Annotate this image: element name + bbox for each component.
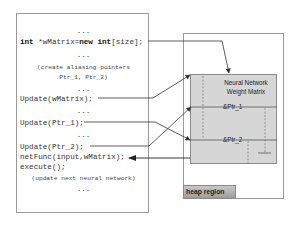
matrix-title-line2: Weight Matrix [215, 88, 277, 97]
code-comment: (update next neural network) [17, 174, 150, 183]
code-ellipsis: ... [17, 107, 150, 116]
code-line-allocation: int *wMatrix=new int[size]; [20, 38, 143, 47]
code-ellipsis: ... [17, 27, 150, 36]
ptr2-label: &Ptr_2 [223, 136, 242, 143]
code-line-netfunc: netFunc(input,wMatrix); [20, 153, 125, 162]
keyword-int: int [20, 38, 34, 46]
code-ellipsis: ... [17, 51, 150, 60]
heap-region-label: heap region [183, 185, 236, 199]
code-comment: (create aliasing pointers [17, 63, 150, 72]
code-line-update-wmatrix: Update(wMatrix); [20, 95, 93, 104]
code-panel: ... int *wMatrix=new int[size]; ... (cre… [16, 13, 149, 213]
code-ellipsis: ... [17, 185, 150, 194]
matrix-title: Neural Network Weight Matrix [215, 79, 277, 96]
matrix-title-line1: Neural Network [215, 79, 277, 88]
ptr1-label: &Ptr_1 [223, 103, 242, 110]
code-text: *wMatrix= [34, 38, 80, 46]
keyword-int: int [97, 38, 111, 46]
keyword-new: new [79, 38, 93, 46]
code-line-execute: execute(); [20, 163, 66, 172]
code-ellipsis: ... [17, 85, 150, 94]
code-line-update-ptr2: Update(Ptr_2); [20, 143, 84, 152]
code-comment: Ptr_1, Ptr_2) [17, 73, 150, 82]
code-text: [size]; [111, 38, 143, 46]
code-line-update-ptr1: Update(Ptr_1); [20, 119, 84, 128]
code-ellipsis: ... [17, 131, 150, 140]
